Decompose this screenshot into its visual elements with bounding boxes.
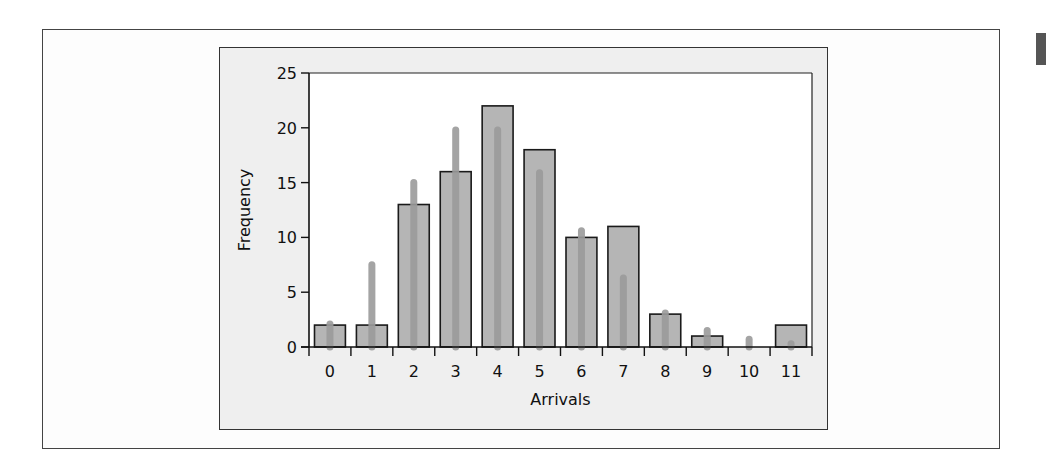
y-tick-label: 10: [277, 228, 297, 247]
x-tick-label: 10: [739, 362, 759, 381]
x-tick-label: 8: [660, 362, 670, 381]
x-tick-label: 1: [367, 362, 377, 381]
y-axis-title: Frequency: [235, 169, 254, 252]
y-tick-label: 25: [277, 64, 297, 83]
y-tick-label: 0: [287, 338, 297, 357]
x-tick-label: 11: [781, 362, 801, 381]
y-tick-label: 20: [277, 119, 297, 138]
x-tick-label: 6: [576, 362, 586, 381]
page-edge-marker: [1036, 33, 1046, 65]
x-tick-label: 5: [534, 362, 544, 381]
x-tick-label: 4: [493, 362, 503, 381]
x-axis-title: Arrivals: [530, 390, 590, 409]
x-tick-label: 3: [451, 362, 461, 381]
y-tick-label: 15: [277, 174, 297, 193]
plot-area: [309, 73, 812, 347]
histogram-chart: 051015202501234567891011 Arrivals Freque…: [220, 48, 829, 431]
x-tick-label: 2: [409, 362, 419, 381]
x-tick-label: 9: [702, 362, 712, 381]
x-tick-label: 7: [618, 362, 628, 381]
y-tick-label: 5: [287, 283, 297, 302]
chart-panel: 051015202501234567891011 Arrivals Freque…: [219, 47, 828, 430]
x-tick-label: 0: [325, 362, 335, 381]
